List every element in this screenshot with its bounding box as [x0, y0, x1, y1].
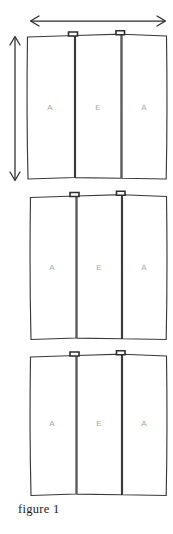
panel-label-3-3: A: [141, 419, 147, 428]
hinge-tab-1-2: [69, 32, 78, 36]
panel-label-1-3: A: [141, 103, 147, 112]
panel-label-2-2: E: [96, 263, 102, 272]
panel-group-3: A E A: [30, 351, 167, 496]
vertical-double-arrow: [10, 37, 20, 181]
figure-canvas: A E A A E A A E A: [0, 0, 173, 534]
figure-caption: figure 1: [18, 503, 60, 516]
figure-diagram: A E A A E A A E A figure 1: [0, 0, 173, 534]
panel-group-1: A E A: [27, 31, 167, 179]
hinge-tab-2-3: [117, 191, 126, 195]
hinge-tab-1-3: [116, 31, 125, 35]
hinge-tab-3-3: [117, 351, 126, 355]
panel-label-2-3: A: [141, 263, 147, 272]
panel-group-2: A E A: [30, 191, 167, 339]
panel-label-2-1: A: [49, 263, 55, 272]
panel-label-3-2: E: [96, 419, 102, 428]
hinge-tab-2-2: [70, 193, 79, 197]
panel-label-3-1: A: [49, 419, 55, 428]
horizontal-double-arrow: [31, 16, 166, 26]
panel-label-1-2: E: [95, 103, 101, 112]
hinge-tab-3-2: [70, 352, 79, 356]
panel-label-1-1: A: [47, 103, 53, 112]
